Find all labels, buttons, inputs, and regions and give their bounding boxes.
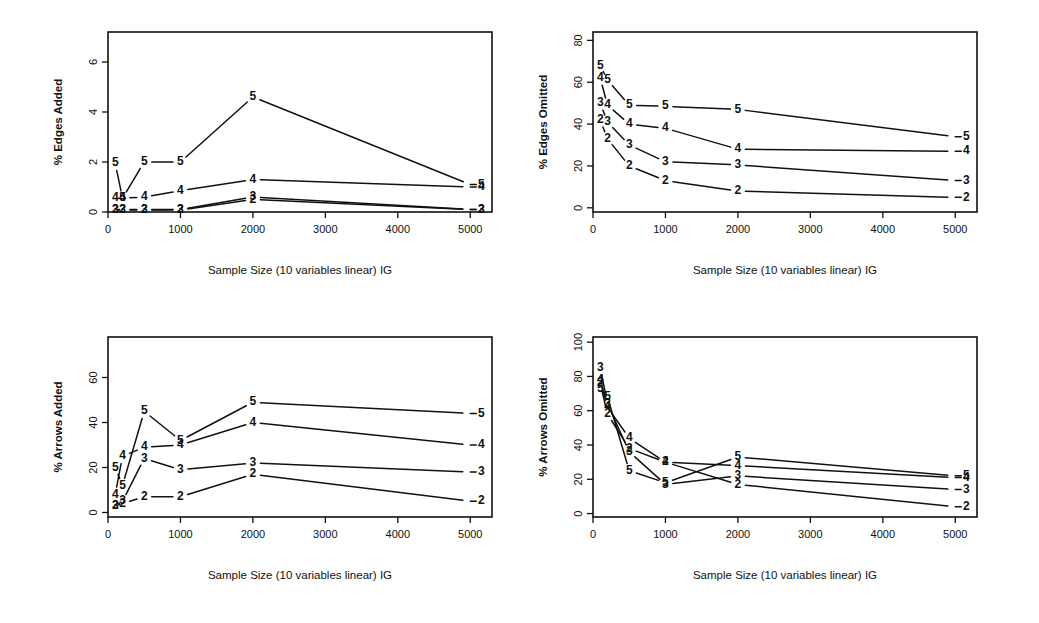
x-axis-tick-label: 1000 xyxy=(653,223,677,235)
x-axis-tick-label: 0 xyxy=(590,528,596,540)
y-axis-tick-label: 20 xyxy=(572,160,584,172)
data-point-label: 3 xyxy=(604,114,611,128)
x-axis-tick-label: 1000 xyxy=(168,528,192,540)
data-point-label: 2 xyxy=(177,202,184,216)
series-segment xyxy=(745,191,947,197)
x-axis-tick-label: 3000 xyxy=(313,528,337,540)
data-point-label: 2 xyxy=(119,202,126,216)
data-point-label: 4 xyxy=(478,179,485,193)
series-segment xyxy=(126,168,140,191)
y-axis-tick-label: 2 xyxy=(87,159,99,165)
data-point-label: 3 xyxy=(963,482,970,496)
y-axis-title: % Arrows Omitted xyxy=(537,377,549,476)
data-point-label: 2 xyxy=(626,441,633,455)
figure-container: 0100020003000400050000246% Edges AddedSa… xyxy=(0,0,1039,623)
series-segment xyxy=(188,201,246,209)
data-point-label: 2 xyxy=(604,406,611,420)
data-point-label: 5 xyxy=(112,155,119,169)
series-segment xyxy=(612,86,624,100)
x-axis-title: Sample Size (10 variables linear) IG xyxy=(208,264,392,276)
data-point-label: 3 xyxy=(177,462,184,476)
series-segment xyxy=(188,464,246,469)
data-point-label: 5 xyxy=(250,394,257,408)
x-axis-tick-label: 1000 xyxy=(168,223,192,235)
y-axis-tick-label: 0 xyxy=(572,511,584,517)
y-axis-tick-label: 100 xyxy=(572,333,584,351)
x-axis-tick-label: 4000 xyxy=(386,223,410,235)
x-axis-tick-label: 3000 xyxy=(798,223,822,235)
series-segment xyxy=(188,425,246,443)
x-axis-tick-label: 2000 xyxy=(726,223,750,235)
data-point-label: 5 xyxy=(177,154,184,168)
data-point-label: 5 xyxy=(478,406,485,420)
x-axis-title: Sample Size (10 variables linear) IG xyxy=(693,569,877,581)
series-segment xyxy=(260,200,462,209)
series-segment xyxy=(188,476,246,494)
x-axis-tick-label: 2000 xyxy=(241,223,265,235)
y-axis-tick-label: 40 xyxy=(572,439,584,451)
series-segment xyxy=(186,102,247,157)
data-point-label: 5 xyxy=(662,98,669,112)
data-point-label: 4 xyxy=(735,141,742,155)
data-point-label: 3 xyxy=(735,157,742,171)
x-axis-tick-label: 5000 xyxy=(458,528,482,540)
data-point-label: 5 xyxy=(141,154,148,168)
data-point-label: 3 xyxy=(141,451,148,465)
chart-svg-arrows-added: 0100020003000400050000204060% Arrows Add… xyxy=(40,315,510,615)
data-point-label: 2 xyxy=(119,496,126,510)
series-segment xyxy=(745,458,947,476)
series-segment xyxy=(260,180,462,187)
series-segment xyxy=(260,475,462,500)
series-2: 222222 xyxy=(597,375,970,512)
series-segment xyxy=(260,463,462,471)
data-point-label: 5 xyxy=(604,72,611,86)
data-point-label: 2 xyxy=(177,489,184,503)
y-axis-tick-label: 4 xyxy=(87,109,99,115)
series-segment xyxy=(151,461,173,468)
series-3: 333333 xyxy=(597,95,970,186)
x-axis-tick-label: 3000 xyxy=(798,528,822,540)
x-axis-tick-label: 5000 xyxy=(943,528,967,540)
data-point-label: 2 xyxy=(963,499,970,513)
data-point-label: 2 xyxy=(597,375,604,389)
data-point-label: 2 xyxy=(662,454,669,468)
y-axis-tick-label: 80 xyxy=(572,370,584,382)
series-segment xyxy=(745,466,947,477)
series-5: 555555 xyxy=(112,394,485,491)
data-point-label: 2 xyxy=(141,202,148,216)
data-point-label: 4 xyxy=(604,97,611,111)
y-axis-tick-label: 0 xyxy=(87,509,99,515)
data-point-label: 4 xyxy=(963,143,970,157)
series-segment xyxy=(745,110,947,135)
data-point-label: 4 xyxy=(250,172,257,186)
data-point-label: 4 xyxy=(662,120,669,134)
data-point-label: 5 xyxy=(626,463,633,477)
data-point-label: 2 xyxy=(112,202,119,216)
series-segment xyxy=(187,406,246,437)
series-segment xyxy=(150,416,175,436)
x-axis-tick-label: 3000 xyxy=(313,223,337,235)
y-axis-tick-label: 20 xyxy=(87,461,99,473)
data-point-label: 2 xyxy=(141,489,148,503)
plot-frame xyxy=(108,32,492,212)
data-point-label: 2 xyxy=(963,190,970,204)
series-segment xyxy=(188,198,246,208)
plot-frame xyxy=(593,32,977,212)
data-point-label: 3 xyxy=(597,360,604,374)
x-axis-title: Sample Size (10 variables linear) IG xyxy=(208,569,392,581)
data-point-label: 5 xyxy=(735,102,742,116)
x-axis-tick-label: 4000 xyxy=(871,528,895,540)
series-segment xyxy=(673,107,730,109)
x-axis-tick-label: 1000 xyxy=(653,528,677,540)
series-segment xyxy=(612,145,624,160)
y-axis-tick-label: 80 xyxy=(572,34,584,46)
series-segment xyxy=(673,182,731,190)
data-point-label: 2 xyxy=(735,183,742,197)
series-segment xyxy=(673,162,730,164)
series-segment xyxy=(745,149,947,151)
series-segment xyxy=(117,171,121,191)
x-axis-tick-label: 5000 xyxy=(458,223,482,235)
series-2: 222222 xyxy=(112,466,485,512)
data-point-label: 2 xyxy=(250,192,257,206)
data-point-label: 2 xyxy=(597,112,604,126)
